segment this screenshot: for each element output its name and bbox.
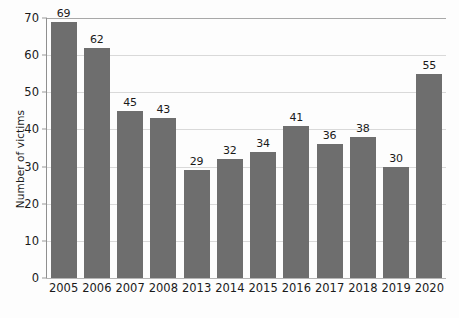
bar-2018[interactable] xyxy=(350,137,376,278)
bar-2019[interactable] xyxy=(383,167,409,278)
bar-2007[interactable] xyxy=(117,111,143,278)
bar-2013[interactable] xyxy=(184,170,210,278)
x-tick-label-2014: 2014 xyxy=(213,281,246,295)
bar-value-label: 32 xyxy=(223,144,237,157)
bar-slot: 55 xyxy=(413,18,446,278)
y-axis-title: Number of victims xyxy=(18,0,38,318)
bar-2008[interactable] xyxy=(150,118,176,278)
x-tick-label-2017: 2017 xyxy=(313,281,346,295)
x-axis-line xyxy=(46,278,446,279)
y-tick-label-40: 40 xyxy=(24,122,39,136)
bar-2006[interactable] xyxy=(84,48,110,278)
x-tick-label-2019: 2019 xyxy=(380,281,413,295)
y-tick-label-70: 70 xyxy=(24,11,39,25)
x-axis-labels: 2005200620072008201320142015201620172018… xyxy=(47,281,446,295)
bar-slot: 41 xyxy=(280,18,313,278)
x-tick-label-2008: 2008 xyxy=(147,281,180,295)
y-tick-label-60: 60 xyxy=(24,48,39,62)
bar-slot: 43 xyxy=(147,18,180,278)
bar-series: 696245432932344136383055 xyxy=(47,18,446,278)
bar-slot: 45 xyxy=(114,18,147,278)
bar-2016[interactable] xyxy=(283,126,309,278)
bar-value-label: 62 xyxy=(90,33,104,46)
bar-value-label: 69 xyxy=(57,7,71,20)
x-tick-label-2005: 2005 xyxy=(47,281,80,295)
bar-2017[interactable] xyxy=(317,144,343,278)
y-axis-ticks: 010203040506070 xyxy=(0,0,47,318)
y-tick-label-0: 0 xyxy=(32,271,39,285)
y-tick-label-30: 30 xyxy=(24,160,39,174)
x-tick-label-2015: 2015 xyxy=(247,281,280,295)
bar-value-label: 43 xyxy=(156,103,170,116)
bar-slot: 38 xyxy=(346,18,379,278)
bar-slot: 36 xyxy=(313,18,346,278)
bar-value-label: 55 xyxy=(422,59,436,72)
bar-slot: 29 xyxy=(180,18,213,278)
x-tick-label-2007: 2007 xyxy=(114,281,147,295)
bar-slot: 34 xyxy=(247,18,280,278)
bar-slot: 69 xyxy=(47,18,80,278)
bar-value-label: 38 xyxy=(356,122,370,135)
x-tick-label-2016: 2016 xyxy=(280,281,313,295)
x-tick-label-2018: 2018 xyxy=(346,281,379,295)
y-tick-label-50: 50 xyxy=(24,85,39,99)
bar-2014[interactable] xyxy=(217,159,243,278)
bar-value-label: 45 xyxy=(123,96,137,109)
y-axis-title-label: Number of victims xyxy=(14,110,26,208)
bar-slot: 62 xyxy=(80,18,113,278)
bar-value-label: 34 xyxy=(256,137,270,150)
bar-slot: 32 xyxy=(213,18,246,278)
bar-2015[interactable] xyxy=(250,152,276,278)
bar-value-label: 36 xyxy=(323,129,337,142)
bar-slot: 30 xyxy=(380,18,413,278)
y-tick-label-10: 10 xyxy=(24,234,39,248)
x-tick-label-2020: 2020 xyxy=(413,281,446,295)
bar-2020[interactable] xyxy=(416,74,442,278)
x-tick-label-2013: 2013 xyxy=(180,281,213,295)
x-tick-label-2006: 2006 xyxy=(80,281,113,295)
bar-chart: Number of victims 010203040506070 696245… xyxy=(0,0,459,318)
bar-value-label: 29 xyxy=(190,155,204,168)
bar-value-label: 30 xyxy=(389,152,403,165)
bar-2005[interactable] xyxy=(51,22,77,278)
bar-value-label: 41 xyxy=(289,111,303,124)
y-tick-label-20: 20 xyxy=(24,197,39,211)
